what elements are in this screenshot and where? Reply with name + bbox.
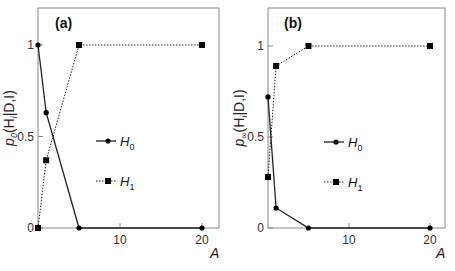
data-point-H1 (273, 63, 279, 69)
panel-label: (a) (55, 15, 72, 31)
legend: H0H1 (96, 134, 134, 192)
figure: 00.51 1020 (a) p0(Hi|D,I) A H0H1 00.51 1… (0, 0, 455, 271)
y-ticks: 00.51 (17, 38, 43, 235)
legend-marker-circle-icon (333, 139, 338, 144)
x-tick-label: 20 (195, 233, 209, 247)
x-axis-title: A (435, 245, 445, 261)
x-axis-title: A (209, 245, 219, 261)
data-point-H1 (35, 225, 41, 231)
panel-a-chart: 00.51 1020 (a) p0(Hi|D,I) A H0H1 (1, 8, 219, 261)
y-tick-label: 0 (27, 221, 34, 235)
legend-marker-square-icon (105, 178, 111, 184)
legend-item-H0: H0 (96, 134, 134, 152)
data-point-H0 (35, 42, 40, 47)
legend-item-H1: H1 (324, 175, 362, 193)
y-tick-label: 1 (257, 39, 264, 53)
y-tick-label: 1 (27, 38, 34, 52)
x-tick-label: 10 (342, 233, 356, 247)
legend-item-H0: H0 (324, 135, 362, 153)
data-point-H1 (306, 43, 312, 49)
data-point-H0 (76, 225, 81, 230)
data-point-H1 (76, 42, 82, 48)
series-H0-line (268, 97, 430, 228)
legend-label: H1 (120, 174, 134, 192)
data-point-H1 (427, 43, 433, 49)
data-point-H0 (274, 205, 279, 210)
panel-label: (b) (284, 15, 302, 31)
data-point-H0 (265, 94, 270, 99)
legend-item-H1: H1 (96, 174, 134, 192)
plot-frame (38, 8, 219, 228)
y-axis-title: p∞(Hi|D,I) (231, 89, 249, 147)
legend-marker-square-icon (333, 179, 339, 185)
svg-text:p0(Hi|D,I): p0(Hi|D,I) (1, 90, 19, 147)
x-ticks: 1020 (342, 223, 437, 247)
legend: H0H1 (324, 135, 362, 193)
data-point-H0 (427, 225, 432, 230)
x-tick-label: 10 (113, 233, 127, 247)
legend-marker-circle-icon (105, 138, 110, 143)
y-axis-title: p0(Hi|D,I) (1, 90, 19, 147)
plot-frame (268, 8, 445, 228)
y-ticks: 00.51 (247, 39, 273, 235)
y-tick-label: 0.5 (17, 130, 34, 144)
data-point-H0 (199, 225, 204, 230)
x-tick-label: 20 (423, 233, 437, 247)
data-point-H0 (306, 225, 311, 230)
y-tick-label: 0.5 (247, 130, 264, 144)
data-point-H1 (199, 42, 205, 48)
data-point-H1 (265, 174, 271, 180)
panel-b-chart: 00.51 1020 (b) p∞(Hi|D,I) A H0H1 (231, 8, 445, 261)
y-tick-label: 0 (257, 221, 264, 235)
series-H1-line (268, 46, 430, 177)
svg-text:p∞(Hi|D,I): p∞(Hi|D,I) (231, 89, 249, 147)
legend-label: H1 (348, 175, 362, 193)
data-point-H0 (44, 110, 49, 115)
legend-label: H0 (348, 135, 362, 153)
x-ticks: 1020 (113, 223, 209, 247)
legend-label: H0 (120, 134, 134, 152)
data-point-H1 (43, 157, 49, 163)
